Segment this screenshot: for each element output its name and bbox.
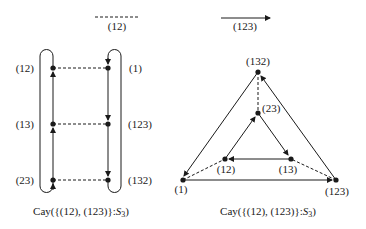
- vertex-label-23: (23): [16, 174, 35, 187]
- cayley-diagrams-canvas: (12) (123) (12) (13) (23) (1) (123) (132…: [0, 0, 366, 229]
- edge-12-23: [225, 117, 255, 159]
- vertex-label-12: (12): [16, 62, 35, 75]
- legend: (12) (123): [95, 17, 270, 33]
- vertex-123: [105, 121, 110, 126]
- vertex-13: [50, 121, 55, 126]
- vertex-12: [50, 65, 55, 70]
- vertex-label-132: (132): [128, 174, 152, 187]
- right-loop-edge: [108, 50, 121, 193]
- right-cayley-graph: (132) (23) (12) (13) (1) (123) Cay({(12)…: [175, 55, 350, 219]
- vertex-132: [105, 177, 110, 182]
- vertex-label-1: (1): [129, 62, 142, 75]
- right-caption: Cay({(12), (123)}:S3): [220, 205, 316, 219]
- vertex-label-13: (13): [279, 163, 298, 176]
- edge-132-1: [184, 72, 258, 176]
- vertex-label-12: (12): [217, 163, 236, 176]
- vertex-label-123: (123): [325, 185, 349, 198]
- vertex-23: [255, 110, 260, 115]
- left-loop-edge: [40, 50, 53, 193]
- vertex-label-23: (23): [262, 102, 281, 115]
- vertex-13: [288, 156, 293, 161]
- vertex-123: [333, 177, 338, 182]
- vertex-1: [180, 177, 185, 182]
- dashed-edge-123-13: [291, 159, 336, 180]
- vertex-label-1: (1): [175, 183, 188, 196]
- vertex-label-123: (123): [128, 118, 152, 131]
- edge-23-13: [258, 113, 288, 155]
- left-cayley-graph: (12) (13) (23) (1) (123) (132) Cay({(12)…: [16, 50, 152, 220]
- edge-123-132: [261, 76, 336, 180]
- vertex-12: [222, 156, 227, 161]
- legend-dashed-label: (12): [108, 20, 127, 33]
- vertex-label-13: (13): [16, 118, 35, 131]
- vertex-label-132: (132): [246, 55, 270, 68]
- legend-arrow-label: (123): [233, 20, 257, 33]
- left-caption: Cay({(12), (123)}:S3): [33, 205, 129, 219]
- vertex-132: [255, 69, 260, 74]
- vertex-1: [105, 65, 110, 70]
- vertex-23: [50, 177, 55, 182]
